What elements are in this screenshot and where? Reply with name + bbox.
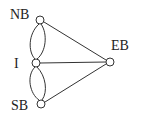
node-i	[32, 59, 40, 67]
node-sb	[37, 100, 45, 108]
node-eb	[106, 58, 114, 66]
edge-nb-eb	[44, 22, 106, 60]
edge-i-eb	[40, 62, 106, 63]
edge-nb-i-right	[37, 24, 45, 59]
edge-nb-i-left	[30, 24, 39, 59]
bridges-graph: NB I SB EB	[0, 0, 143, 122]
node-nb	[36, 16, 44, 24]
label-i: I	[14, 56, 19, 71]
edge-sb-eb	[45, 64, 106, 102]
edge-i-sb-right	[37, 67, 45, 100]
label-nb: NB	[10, 7, 29, 22]
label-eb: EB	[111, 38, 129, 53]
edges	[30, 22, 106, 102]
label-sb: SB	[11, 98, 28, 113]
edge-i-sb-left	[30, 67, 39, 100]
